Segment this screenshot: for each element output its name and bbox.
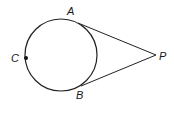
label-b: B: [76, 89, 83, 101]
label-a: A: [66, 5, 74, 17]
tangent-segment-pb: [81, 55, 156, 86]
geometry-diagram: A B C P: [0, 0, 174, 115]
point-c-dot: [24, 56, 28, 60]
circle: [25, 19, 97, 91]
tangent-segment-pa: [78, 23, 156, 55]
label-c: C: [11, 52, 19, 64]
label-p: P: [159, 50, 167, 62]
